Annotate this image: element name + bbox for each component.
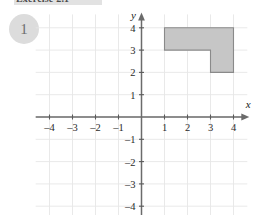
y-tick-label: 4 (130, 23, 136, 34)
coordinate-graph: –4–3–2–112344321–1–2–3–4 xy (0, 0, 258, 215)
graph-svg: –4–3–2–112344321–1–2–3–4 xy (0, 0, 258, 215)
x-tick-label: 4 (231, 122, 237, 133)
x-tick-label: 2 (185, 122, 190, 133)
y-tick-label: –3 (124, 179, 136, 190)
x-tick-label: 1 (162, 122, 167, 133)
plotted-shapes (165, 28, 234, 73)
y-axis-arrowhead (138, 12, 145, 20)
x-axis-name-label: x (245, 98, 251, 110)
x-axis-arrowhead (241, 114, 249, 121)
y-tick-label: –1 (124, 134, 136, 145)
x-tick-label: –1 (112, 122, 124, 133)
y-axis-name-label: y (130, 9, 136, 21)
x-tick-label: –4 (43, 122, 55, 133)
l-shaped-polygon (165, 28, 234, 73)
x-tick-label: –2 (89, 122, 101, 133)
y-tick-label: –4 (124, 201, 136, 212)
x-tick-label: –3 (66, 122, 78, 133)
y-tick-label: –2 (124, 157, 136, 168)
x-tick-label: 3 (208, 122, 213, 133)
y-tick-label: 2 (130, 67, 135, 78)
y-tick-label: 3 (130, 45, 135, 56)
y-tick-label: 1 (130, 90, 135, 101)
